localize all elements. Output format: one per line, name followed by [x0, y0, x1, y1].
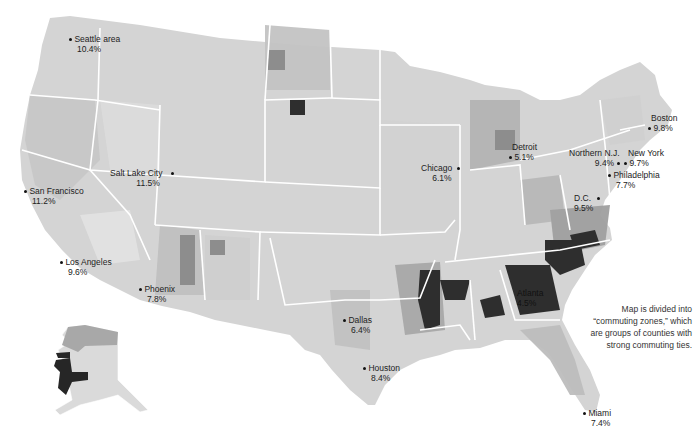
city-value: 11.2% — [24, 196, 84, 206]
city-value: 9.6% — [60, 267, 112, 277]
city-dot-icon — [60, 261, 63, 264]
city-label-dc: D.C. 9.5% — [574, 193, 600, 213]
city-dot-icon — [624, 162, 627, 165]
city-dot-icon — [648, 127, 651, 130]
city-dot-icon — [617, 162, 620, 165]
city-label-phoenix: Phoenix 7.8% — [139, 284, 175, 304]
city-dot-icon — [139, 288, 142, 291]
city-label-new-york: New York 9.7% — [624, 148, 664, 168]
city-name: Houston — [368, 363, 400, 373]
city-dot-icon — [69, 38, 72, 41]
city-value: 4.5% — [517, 298, 543, 308]
city-name: Philadelphia — [613, 170, 659, 180]
city-name: Atlanta — [517, 288, 543, 298]
city-name: Phoenix — [144, 284, 175, 294]
city-dot-icon — [597, 197, 600, 200]
city-name: Salt Lake City — [110, 168, 162, 178]
city-label-seattle: Seattle area 10.4% — [69, 34, 120, 54]
city-value: 9.8% — [653, 123, 672, 133]
city-label-chicago: Chicago 6.1% — [421, 163, 460, 183]
city-value: 8.4% — [363, 373, 400, 383]
alaska — [54, 325, 148, 415]
city-label-los-angeles: Los Angeles 9.6% — [60, 257, 112, 277]
city-label-houston: Houston 8.4% — [363, 363, 400, 383]
city-value: 7.8% — [139, 294, 175, 304]
city-dot-icon — [583, 412, 586, 415]
city-dot-icon — [171, 172, 174, 175]
map-note: Map is divided into “commuting zones,” w… — [582, 303, 692, 351]
city-label-atlanta: Atlanta 4.5% — [517, 288, 543, 308]
city-name: Boston — [648, 113, 677, 123]
city-name: D.C. — [574, 193, 591, 203]
city-name: New York — [624, 148, 664, 158]
city-name: Detroit — [509, 142, 537, 152]
city-dot-icon — [509, 156, 512, 159]
city-name: San Francisco — [29, 186, 83, 196]
city-name: Chicago — [421, 163, 452, 173]
city-value: 5.1% — [514, 152, 533, 162]
city-dot-icon — [363, 367, 366, 370]
city-label-philadelphia: Philadelphia 7.7% — [608, 170, 660, 190]
city-label-northern-nj: Northern N.J. 9.4% — [569, 148, 620, 168]
city-dot-icon — [24, 190, 27, 193]
us-commuting-zone-map — [0, 0, 700, 444]
city-value: 11.5% — [110, 178, 174, 188]
city-label-salt-lake-city: Salt Lake City 11.5% — [110, 168, 174, 188]
city-label-san-francisco: San Francisco 11.2% — [24, 186, 84, 206]
city-dot-icon — [457, 167, 460, 170]
city-label-boston: Boston 9.8% — [648, 113, 677, 133]
city-label-miami: Miami 7.4% — [583, 408, 611, 428]
city-value: 6.4% — [343, 325, 372, 335]
city-value: 6.1% — [421, 173, 460, 183]
city-value: 7.7% — [608, 180, 660, 190]
city-name: Los Angeles — [65, 257, 111, 267]
city-value: 9.4% — [595, 158, 614, 168]
city-name: Northern N.J. — [569, 148, 620, 158]
city-dot-icon — [343, 319, 346, 322]
city-value: 9.7% — [629, 158, 648, 168]
city-name: Seattle area — [74, 34, 120, 44]
city-name: Dallas — [348, 315, 372, 325]
city-value: 9.5% — [574, 203, 600, 213]
city-value: 10.4% — [69, 44, 120, 54]
city-label-detroit: Detroit 5.1% — [509, 142, 537, 162]
city-name: Miami — [588, 408, 611, 418]
city-dot-icon — [608, 174, 611, 177]
city-label-dallas: Dallas 6.4% — [343, 315, 372, 335]
city-value: 7.4% — [583, 418, 611, 428]
